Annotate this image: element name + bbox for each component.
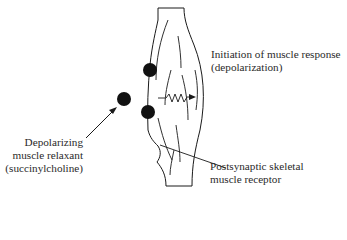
receptor-label: Postsynaptic skeletal muscle receptor xyxy=(210,160,304,186)
bound-molecule-upper xyxy=(143,63,157,77)
relaxant-label-line3: (succinylcholine) xyxy=(5,162,83,175)
relaxant-pointer-arrow xyxy=(86,110,114,138)
relaxant-label-line1: Depolarizing xyxy=(5,136,83,149)
arrowhead-icon xyxy=(109,107,117,114)
bound-molecule-lower xyxy=(141,105,155,119)
receptor-label-line2: muscle receptor xyxy=(210,173,304,186)
initiation-label-line1: Initiation of muscle response xyxy=(211,48,341,61)
receptor-label-line1: Postsynaptic skeletal xyxy=(210,160,304,173)
relaxant-label-line2: muscle relaxant xyxy=(5,149,83,162)
initiation-label: Initiation of muscle response (depolariz… xyxy=(211,48,341,74)
free-molecule xyxy=(117,92,131,106)
zigzag-arrowhead-icon xyxy=(189,94,196,100)
relaxant-label: Depolarizing muscle relaxant (succinylch… xyxy=(5,136,83,175)
initiation-label-line2: (depolarization) xyxy=(211,61,341,74)
